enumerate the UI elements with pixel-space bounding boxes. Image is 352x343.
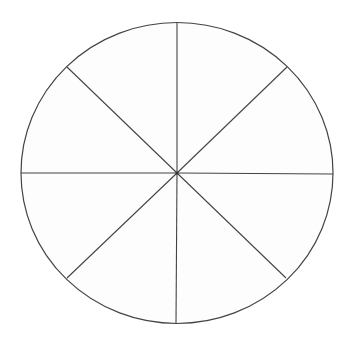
center-point xyxy=(176,172,179,175)
segmented-circle-diagram xyxy=(0,0,352,343)
